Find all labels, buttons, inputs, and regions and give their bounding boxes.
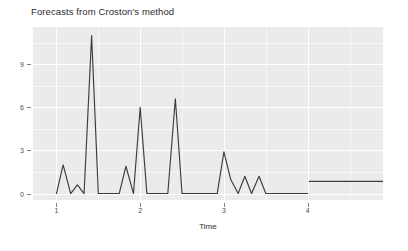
y-axis-labels: 0369 bbox=[0, 27, 24, 200]
y-tick-label: 0 bbox=[20, 190, 24, 197]
x-axis-title: Time bbox=[33, 222, 383, 231]
y-tick-mark bbox=[27, 107, 31, 108]
y-tick-mark bbox=[27, 64, 31, 65]
x-tick-label: 2 bbox=[138, 207, 142, 214]
y-tick-label: 3 bbox=[20, 147, 24, 154]
y-tick-label: 6 bbox=[20, 104, 24, 111]
data-series-layer bbox=[33, 27, 383, 200]
series-line-historical-demand bbox=[56, 36, 307, 194]
y-tick-label: 9 bbox=[20, 61, 24, 68]
x-axis-labels: 1234 bbox=[33, 203, 383, 217]
x-tick-label: 3 bbox=[222, 207, 226, 214]
y-tick-mark bbox=[27, 150, 31, 151]
y-tick-mark bbox=[27, 194, 31, 195]
chart-title: Forecasts from Croston's method bbox=[31, 6, 174, 17]
x-tick-label: 4 bbox=[306, 207, 310, 214]
plot-panel bbox=[33, 27, 383, 200]
x-tick-label: 1 bbox=[54, 207, 58, 214]
chart-root: Forecasts from Croston's method 0369 123… bbox=[0, 0, 408, 251]
